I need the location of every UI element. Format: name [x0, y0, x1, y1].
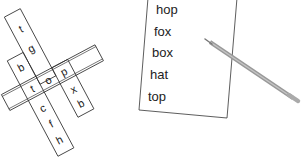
cell-letter: p — [58, 65, 69, 78]
word-list-item: box — [152, 45, 173, 60]
word-list-item: hat — [150, 67, 168, 82]
cell-letter: c — [37, 101, 48, 114]
cell-letter: t — [28, 82, 36, 94]
cell-letter: h — [54, 133, 65, 146]
cell-letter: g — [26, 41, 37, 54]
word-list-item: top — [148, 89, 166, 104]
word-list-item: hop — [156, 2, 178, 17]
cell-letter: b — [15, 61, 26, 74]
puzzle-illustration: b t c f h t g o p x b hop fox box hat to… — [0, 0, 302, 157]
cell-letter: x — [68, 82, 79, 95]
cell-letter: t — [17, 23, 25, 35]
cell-letter: b — [75, 97, 86, 110]
word-list-item: fox — [154, 24, 172, 39]
cell-letter: f — [47, 117, 56, 129]
crossword-grid: b t c f h t g o p x b — [0, 0, 133, 157]
cell-letter: o — [42, 73, 53, 86]
